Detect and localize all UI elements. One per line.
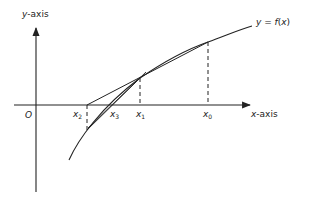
x3-label: x3 [109, 109, 119, 120]
x0-label: x0 [202, 109, 212, 120]
curve-label: y = f(x) [255, 17, 290, 27]
x1-label: x1 [135, 109, 145, 120]
function-curve [69, 26, 252, 160]
x-axis-label: x-axis [250, 109, 278, 119]
origin-label: O [25, 110, 32, 120]
y-axis-label: y-axis [21, 9, 49, 19]
x2-label: x2 [72, 109, 82, 120]
secant-line-1 [87, 42, 208, 105]
secant-method-diagram: y-axis O x-axis y = f(x) x0 x1 x2 x3 [0, 0, 311, 201]
